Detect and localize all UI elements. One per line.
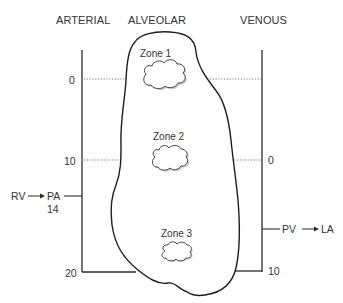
- rv-label: RV: [11, 191, 25, 202]
- header-arterial: ARTERIAL: [56, 15, 110, 26]
- header-alveolar: ALVEOLAR: [128, 15, 186, 26]
- la-label: LA: [321, 224, 334, 235]
- pv-label: PV: [282, 224, 296, 235]
- zone-3-cloud-icon: [162, 242, 193, 262]
- zone-1-label: Zone 1: [140, 49, 171, 59]
- arterial-tick-0: 0: [69, 75, 75, 86]
- venous-tick-10: 10: [268, 266, 280, 277]
- venous-tick-0: 0: [268, 155, 274, 166]
- zone-3-label: Zone 3: [161, 229, 192, 239]
- header-venous: VENOUS: [240, 15, 287, 26]
- pa-pressure-value: 14: [47, 204, 59, 215]
- pa-label: PA: [47, 191, 60, 202]
- pv-la-arrow-icon: [314, 227, 319, 232]
- zones-diagram: [0, 0, 343, 303]
- zone-2-label: Zone 2: [153, 132, 184, 142]
- arterial-tick-20: 20: [65, 268, 77, 279]
- arterial-tick-10: 10: [64, 156, 76, 167]
- rv-pa-arrow-icon: [40, 194, 45, 199]
